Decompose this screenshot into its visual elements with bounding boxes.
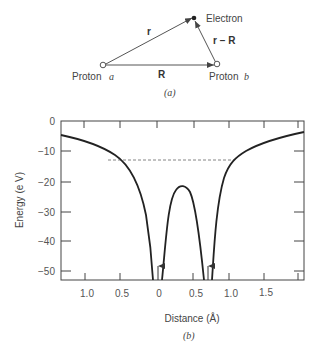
electron-dot	[192, 16, 197, 21]
proton-a-letter: a	[109, 71, 114, 82]
vector-r-minus-R-label: r − R	[213, 35, 236, 46]
figure-canvas: Electron r r − R R Proton a Proton b (a)	[0, 0, 319, 352]
x-axis-label: Distance (Å)	[164, 312, 219, 324]
x-tick-label: 0	[156, 288, 162, 299]
proton-b-letter: b	[244, 71, 249, 82]
x-tick-label: 1.0	[80, 288, 94, 299]
y-axis-label: Energy (e V)	[14, 172, 25, 228]
y-tick-label: 0	[49, 116, 55, 127]
x-ticks-bottom	[85, 273, 298, 280]
y-ticks-left	[61, 151, 71, 271]
potential-curve-barrier	[162, 186, 204, 280]
x-tick-label: 1.0	[224, 288, 238, 299]
vector-r-label: r	[147, 26, 151, 37]
vector-R-label: R	[158, 69, 166, 80]
caption-a: (a)	[164, 87, 176, 99]
proton-b-label: Proton	[209, 71, 238, 82]
x-ticks-top	[84, 121, 298, 128]
vector-diagram: Electron r r − R R Proton a Proton b (a)	[72, 13, 249, 99]
potential-curve-right	[212, 132, 304, 280]
energy-chart: 0 −10 −20 −30 −40 −50 1.0 0.5 0 0.5 1.0 …	[14, 116, 304, 342]
potential-curve-left	[61, 135, 153, 280]
y-tick-label: −30	[38, 207, 55, 218]
y-tick-label: −50	[38, 266, 55, 277]
y-tick-label: −10	[38, 146, 55, 157]
y-tick-label: −40	[38, 236, 55, 247]
electron-label: Electron	[206, 13, 243, 24]
proton-b-circle	[214, 61, 220, 67]
proton-a-circle	[100, 62, 106, 68]
proton-a-label: Proton	[72, 71, 101, 82]
x-tick-label: 0.5	[115, 288, 129, 299]
y-tick-label: −20	[38, 177, 55, 188]
caption-b: (b)	[183, 330, 195, 342]
x-tick-label: 1.5	[259, 287, 273, 298]
x-tick-label: 0.5	[189, 288, 203, 299]
y-ticks-right	[294, 151, 304, 271]
